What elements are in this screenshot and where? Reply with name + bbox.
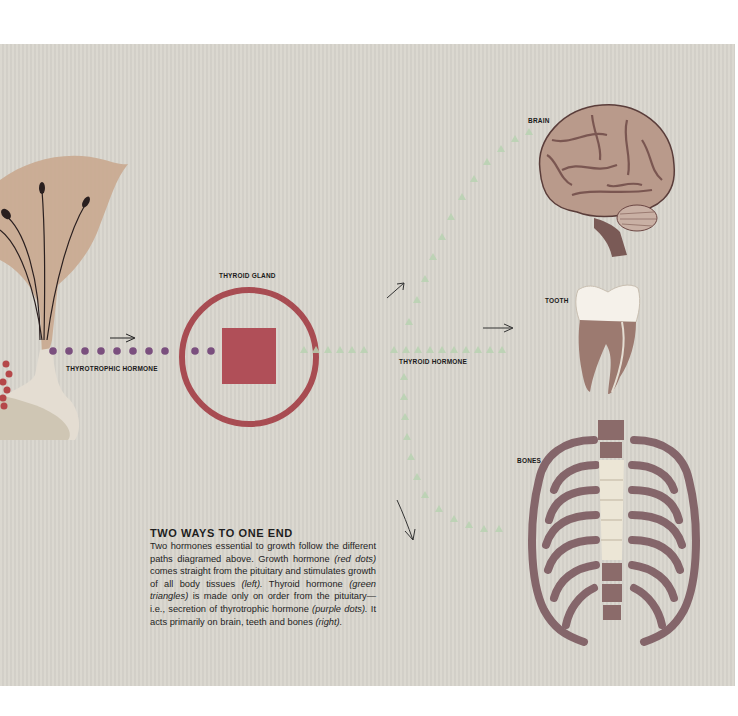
caption-title: TWO WAYS TO ONE END: [150, 527, 376, 539]
tooth-illustration: [570, 282, 645, 397]
caption-text: Thyroid hormone: [263, 579, 350, 589]
pituitary-gland-illustration: [0, 150, 130, 440]
caption-emphasis: (left).: [241, 579, 262, 589]
caption-emphasis: (purple dots).: [312, 604, 367, 614]
tooth-label: TOOTH: [545, 297, 569, 304]
ribcage-illustration: [524, 420, 704, 655]
caption-body: Two hormones essential to growth follow …: [150, 540, 376, 628]
arrow-icon: [395, 498, 421, 544]
thyroid-gland-label: THYROID GLAND: [219, 272, 276, 279]
arrow-icon: [108, 332, 138, 344]
arrow-icon: [482, 322, 516, 334]
figure-caption: TWO WAYS TO ONE END Two hormones essenti…: [150, 527, 376, 628]
caption-emphasis: (red dots): [334, 554, 376, 564]
thyrotrophic-hormone-label: THYROTROPHIC HORMONE: [66, 365, 158, 372]
arrow-icon: [385, 280, 407, 300]
caption-emphasis: (right).: [315, 617, 342, 627]
brain-illustration: [532, 100, 682, 258]
thyroid-hormone-label: THYROID HORMONE: [399, 358, 467, 365]
